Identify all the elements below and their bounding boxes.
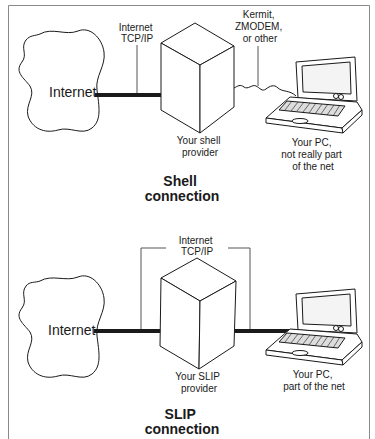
pc-label: Your PC, not really part of the net	[281, 137, 344, 172]
shell-section: Internet Internet TCP/IP Your shell prov…	[19, 9, 362, 204]
internet-label: Internet	[48, 322, 96, 338]
shell-provider-label: Your shell provider	[177, 135, 223, 158]
tcpip-label: Internet TCP/IP	[119, 22, 156, 44]
pc-label: Your PC, part of the net	[283, 369, 345, 392]
pc-laptop-icon	[266, 289, 362, 365]
pc-laptop-icon	[266, 57, 362, 133]
slip-provider-server-icon	[160, 258, 236, 369]
tcpip-label: Internet TCP/IP	[179, 235, 216, 257]
connection-diagram: Internet Internet TCP/IP Your shell prov…	[0, 0, 375, 439]
protocol-label: Kermit, ZMODEM, or other	[235, 9, 285, 44]
shell-connection-title: Shell connection	[145, 173, 220, 204]
serial-link	[234, 85, 296, 96]
slip-connection-title: SLIP connection	[145, 406, 220, 437]
internet-label: Internet	[49, 84, 97, 100]
shell-provider-server-icon	[161, 23, 234, 133]
slip-provider-label: Your SLIP provider	[175, 371, 222, 394]
internet-cloud-icon	[19, 30, 104, 131]
slip-section: Internet Internet TCP/IP Your SLIP provi…	[19, 235, 362, 437]
